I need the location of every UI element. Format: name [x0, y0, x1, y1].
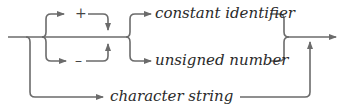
unsigned-number-term: unsigned number	[155, 53, 289, 68]
syntax-diagram: + – constant identifier unsigned number …	[0, 0, 346, 110]
character-string-term: character string	[110, 89, 233, 104]
minus-sign: –	[75, 53, 82, 67]
plus-sign: +	[75, 6, 87, 20]
constant-identifier-term: constant identifier	[155, 6, 295, 21]
